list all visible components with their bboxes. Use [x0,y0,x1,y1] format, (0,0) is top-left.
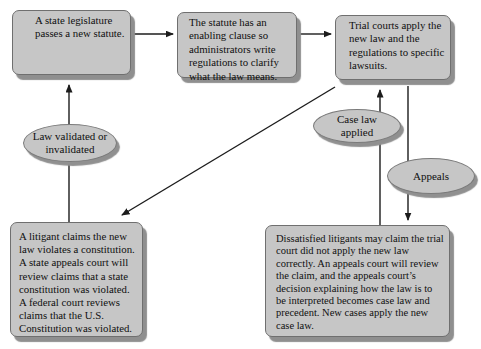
node-enabling-clause: The statute has an enabling clause so ad… [177,12,297,78]
ellipse-case-law-applied: Case law applied [313,109,401,143]
ellipse-appeals: Appeals [387,158,475,194]
ellipse-case-law-applied-label: Case law applied [324,113,390,138]
node-trial-courts: Trial courts apply the new law and the r… [335,15,451,80]
node-dissatisfied-litigants: Dissatisfied litigants may claim the tri… [265,225,450,337]
ellipse-law-validated: Law validated or invalidated [23,124,117,162]
node-state-legislature: A state legislature passes a new statute… [12,10,131,75]
ellipse-law-validated-label: Law validated or invalidated [30,130,110,155]
arrow-trial-to-litigant [122,87,335,215]
node-litigant-constitution: A litigant claims the new law violates a… [10,222,143,337]
ellipse-appeals-label: Appeals [413,170,449,183]
flowchart-diagram: A state legislature passes a new statute… [0,0,481,349]
